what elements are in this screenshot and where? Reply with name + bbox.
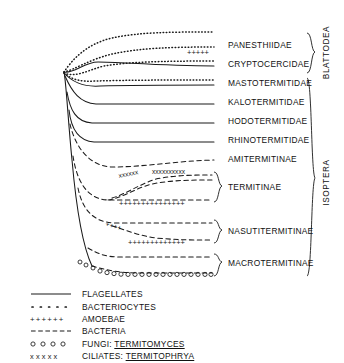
symbiont-fungi-macrotermitinae: [78, 260, 213, 277]
svg-text:xxxxx: xxxxx: [30, 352, 59, 361]
figure-canvas: +++++ xxxxxx xxxxxxxxxx +++++++++++++++ …: [0, 0, 344, 363]
legend-symbol-plus-line: ++++++: [30, 313, 82, 325]
legend-symbol-circle-line: [30, 338, 82, 350]
legend-row-ciliates: xxxxx CILIATES: TERMITOPHRYA: [30, 350, 280, 362]
symbiont-amoebae-nasutitermitinae-diagonal: ++++: [105, 220, 123, 231]
branch-termitinae-upper-bacteria: [108, 180, 212, 200]
legend: FLAGELLATES BACTERIOCYTES ++++++ AMOEBAE…: [30, 288, 280, 362]
branch-cryptocercidae-bacteriocytes: [64, 61, 214, 75]
legend-label-ciliates-genus: TERMITOPHRYA: [126, 351, 195, 361]
branch-termitinae-lower-bacteria: [73, 156, 212, 200]
branch-hodotermitidae-flagellates: [67, 92, 214, 123]
symbiont-ciliates-termitinae-flat: xxxxxxxxxx: [152, 168, 186, 175]
branch-mastotermitidae-bacteriocytes: [64, 73, 214, 81]
branch-root-trunk: [64, 72, 92, 266]
legend-row-fungi: FUNGI: TERMITOMYCES: [30, 338, 280, 350]
tip-brace-macrotermitinae: [214, 254, 222, 276]
legend-label-bacteria: BACTERIA: [82, 326, 126, 336]
taxon-label-kalotermitidae: KALOTERMITIDAE: [228, 98, 305, 106]
legend-label-ciliates-prefix: CILIATES:: [82, 351, 126, 361]
taxon-label-hodotermitidae: HODOTERMITIDAE: [228, 117, 307, 125]
taxon-label-amitermitinae: AMITERMITINAE: [228, 155, 297, 163]
branch-macrotermitinae-lower-bacteria: [92, 266, 212, 273]
legend-label-flagellates: FLAGELLATES: [82, 289, 143, 299]
branch-cryptocercidae-flagellates: [64, 62, 214, 72]
taxon-label-rhinotermitidae: RHINOTERMITIDAE: [228, 136, 309, 144]
legend-symbol-dotted-line: [30, 301, 82, 313]
taxon-label-panesthiidae: PANESTHIIDAE: [228, 41, 292, 49]
symbiont-amoebae-nasutitermitinae: +++++++++++++: [128, 238, 186, 247]
svg-text:++++++: ++++++: [30, 315, 65, 324]
taxon-label-cryptocercidae: CRYPTOCERCIDAE: [228, 60, 309, 68]
branch-termitinae-upper-inner-bacteria: [112, 175, 212, 198]
branch-macrotermitinae-upper-bacteria: [88, 248, 212, 257]
clade-bracket-isoptera: [307, 78, 315, 276]
clade-label-isoptera: ISOPTERA: [322, 154, 331, 212]
legend-row-flagellates: FLAGELLATES: [30, 288, 280, 300]
taxon-label-mastotermitidae: MASTOTERMITIDAE: [228, 79, 312, 87]
legend-symbol-solid-line: [30, 288, 82, 300]
tip-brace-termitinae: [214, 172, 222, 202]
legend-label-fungi-genus: TERMITOMYCES: [114, 339, 184, 349]
legend-row-bacteriocytes: BACTERIOCYTES: [30, 300, 280, 312]
legend-row-amoebae: ++++++ AMOEBAE: [30, 313, 280, 325]
symbiont-amoebae-panesthiidae: +++++: [187, 48, 210, 57]
taxon-label-macrotermitinae: MACROTERMITINAE: [228, 259, 314, 267]
tip-brace-nasutitermitinae: [214, 220, 222, 243]
legend-label-fungi-prefix: FUNGI:: [82, 339, 114, 349]
branch-rhinotermitidae-flagellates: [69, 110, 214, 142]
taxon-label-nasutitermitinae: NASUTITERMITINAE: [228, 227, 313, 235]
legend-label-bacteriocytes: BACTERIOCYTES: [82, 302, 156, 312]
legend-label-fungi: FUNGI: TERMITOMYCES: [82, 339, 185, 349]
legend-label-ciliates: CILIATES: TERMITOPHRYA: [82, 351, 194, 361]
legend-symbol-x-line: xxxxx: [30, 350, 82, 362]
branch-amitermitinae-bacteria: [70, 124, 214, 167]
legend-row-bacteria: BACTERIA: [30, 325, 280, 337]
clade-label-blattodea: BLATTODEA: [322, 23, 331, 83]
taxon-label-termitinae: TERMITINAE: [228, 183, 281, 191]
symbiont-ciliates-termitinae: xxxxxx: [118, 168, 139, 179]
symbiont-amoebae-termitinae: +++++++++++++++: [119, 199, 185, 208]
legend-label-amoebae: AMOEBAE: [82, 314, 125, 324]
legend-symbol-dashed-line: [30, 325, 82, 337]
